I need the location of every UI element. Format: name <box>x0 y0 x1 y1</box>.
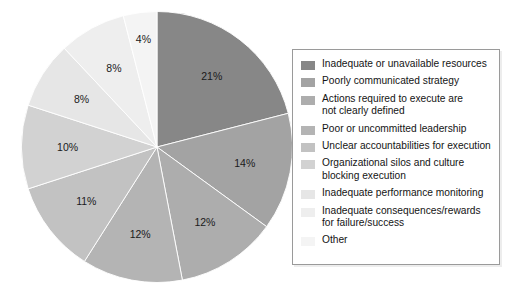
legend-color-swatch <box>301 78 315 87</box>
pie-slice-label: 12% <box>130 228 151 240</box>
legend-box: Inadequate or unavailable resourcesPoorl… <box>292 49 500 265</box>
legend-item-label: Poor or uncommitted leadership <box>322 123 466 135</box>
legend-item[interactable]: Actions required to execute are not clea… <box>301 93 493 118</box>
pie-slice-label: 8% <box>74 93 89 105</box>
legend-color-swatch <box>301 208 315 217</box>
pie-slice-label: 21% <box>201 70 222 82</box>
legend-item-label: Inadequate consequences/rewards for fail… <box>322 205 481 230</box>
legend-color-swatch <box>301 237 315 246</box>
legend-list: Inadequate or unavailable resourcesPoorl… <box>301 58 493 247</box>
legend-item-label: Actions required to execute are not clea… <box>322 93 463 118</box>
chart-canvas: 21%14%12%12%11%10%8%8%4% Inadequate or u… <box>0 0 520 292</box>
pie-chart-svg: 21%14%12%12%11%10%8%8%4% <box>21 11 293 283</box>
legend-item[interactable]: Poorly communicated strategy <box>301 75 493 87</box>
legend-item-label: Other <box>322 234 347 246</box>
legend-item-label: Inadequate or unavailable resources <box>322 58 487 70</box>
pie-slice-label: 8% <box>106 62 121 74</box>
legend-item[interactable]: Inadequate performance monitoring <box>301 187 493 199</box>
pie-slice-label: 4% <box>136 33 151 45</box>
legend-item[interactable]: Poor or uncommitted leadership <box>301 123 493 135</box>
legend-item-label: Unclear accountabilities for execution <box>322 140 491 152</box>
legend-color-swatch <box>301 61 315 70</box>
legend-color-swatch <box>301 160 315 169</box>
pie-slice-label: 10% <box>57 141 78 153</box>
pie-slice-label: 12% <box>194 216 215 228</box>
legend-item-label: Poorly communicated strategy <box>322 75 459 87</box>
legend-item[interactable]: Inadequate consequences/rewards for fail… <box>301 205 493 230</box>
pie-chart: 21%14%12%12%11%10%8%8%4% <box>21 11 293 283</box>
legend-item[interactable]: Organizational silos and culture blockin… <box>301 157 493 182</box>
legend-color-swatch <box>301 126 315 135</box>
pie-slice-label: 14% <box>234 157 255 169</box>
legend-color-swatch <box>301 143 315 152</box>
legend-item[interactable]: Other <box>301 234 493 246</box>
legend-item-label: Organizational silos and culture blockin… <box>322 157 464 182</box>
legend-item[interactable]: Inadequate or unavailable resources <box>301 58 493 70</box>
legend-item[interactable]: Unclear accountabilities for execution <box>301 140 493 152</box>
legend-color-swatch <box>301 96 315 105</box>
pie-slice-label: 11% <box>76 195 96 207</box>
legend-color-swatch <box>301 190 315 199</box>
legend-item-label: Inadequate performance monitoring <box>322 187 483 199</box>
